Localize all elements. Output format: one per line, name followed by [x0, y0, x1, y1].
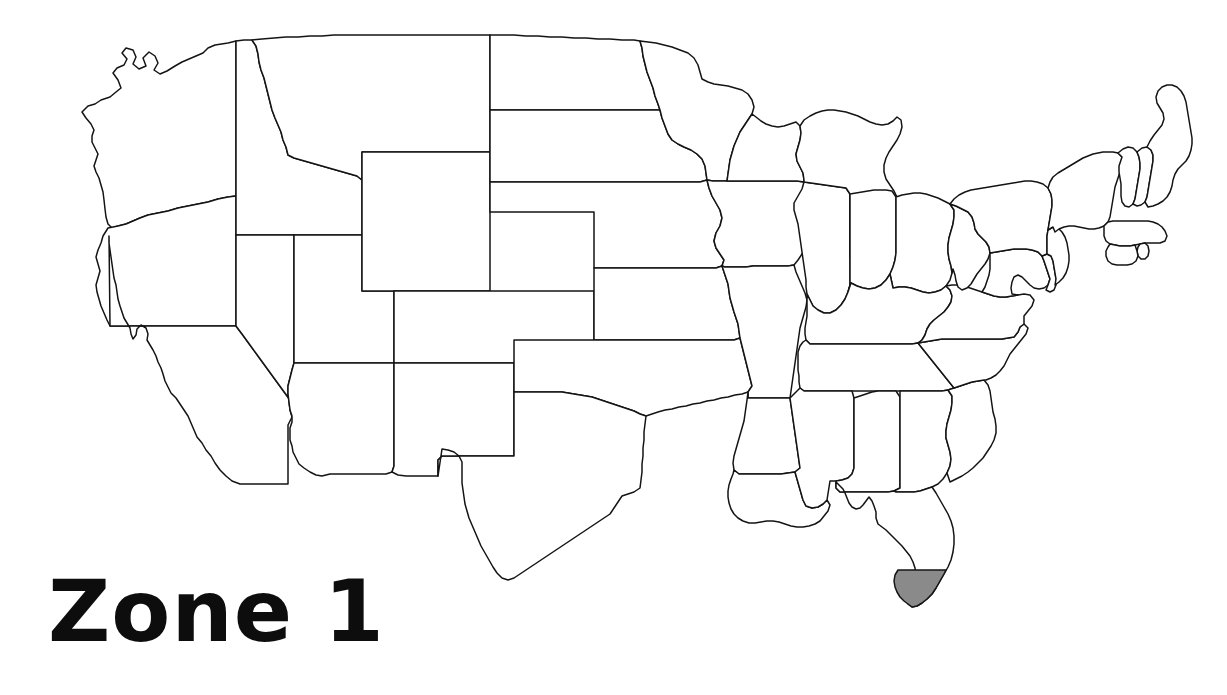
- state-georgia: [894, 390, 952, 492]
- state-ohio: [890, 193, 954, 293]
- zone-map-figure: Zone 1: [0, 0, 1227, 695]
- state-maryland: [982, 249, 1050, 297]
- state-nebraska: [490, 180, 724, 268]
- state-new-york: [1048, 152, 1122, 232]
- state-south-carolina: [946, 380, 996, 482]
- state-north-dakota: [490, 35, 660, 110]
- state-wyoming: [362, 152, 490, 291]
- zone-label: Zone 1: [48, 568, 385, 654]
- state-kansas: [594, 266, 740, 340]
- highlighted-zone-south-florida: [894, 570, 946, 607]
- state-rhode-island: [1137, 243, 1149, 259]
- state-massachusetts: [1104, 221, 1167, 246]
- state-connecticut: [1106, 244, 1138, 265]
- state-arkansas: [733, 392, 800, 474]
- state-arizona: [288, 363, 394, 476]
- state-maine: [1145, 85, 1192, 207]
